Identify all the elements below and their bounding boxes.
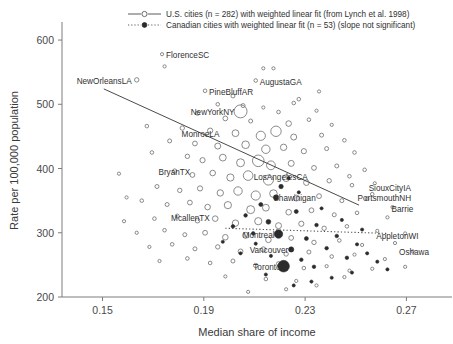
data-point <box>221 240 224 243</box>
data-point <box>215 143 221 149</box>
data-point <box>309 208 314 213</box>
data-point <box>291 134 297 140</box>
legend-label-canadian-cities: Canadian cities with weighted linear fit… <box>166 21 415 30</box>
x-tick-label-0.27: 0.27 <box>396 304 417 316</box>
data-point <box>170 243 174 247</box>
data-point <box>254 242 257 245</box>
data-point <box>307 250 311 254</box>
data-point <box>223 234 229 240</box>
data-point <box>297 191 300 194</box>
data-point <box>312 265 316 269</box>
data-point <box>145 124 149 128</box>
data-point <box>332 213 336 217</box>
data-point <box>262 204 269 211</box>
data-point <box>163 65 166 68</box>
data-point <box>262 145 270 153</box>
legend-item-us-cities[interactable]: U.S. cities (n = 282) with weighted line… <box>128 10 410 19</box>
y-tick-label-500: 500 <box>36 98 54 110</box>
y-tick-label-600: 600 <box>36 34 54 46</box>
x-tick-label-0.15: 0.15 <box>92 304 113 316</box>
data-point <box>256 131 265 140</box>
data-point <box>249 119 253 123</box>
data-point <box>266 219 271 224</box>
data-point <box>203 89 207 93</box>
data-point <box>153 217 157 221</box>
data-point <box>330 123 333 126</box>
data-point <box>197 186 202 191</box>
data-point <box>330 255 334 259</box>
point-label-augustaga: AugustaGA <box>260 78 302 87</box>
data-point <box>312 240 316 244</box>
data-point <box>310 280 313 283</box>
data-point <box>317 194 322 199</box>
data-point <box>277 110 281 114</box>
data-point <box>307 118 311 122</box>
data-point <box>224 275 227 278</box>
data-point <box>203 230 208 235</box>
data-point <box>343 275 346 278</box>
data-point <box>262 106 265 109</box>
y-axis-label: Rate per 100,000 population <box>8 91 20 230</box>
data-point <box>243 171 253 181</box>
data-point <box>244 214 248 218</box>
data-point <box>193 141 198 146</box>
legend-marker-open-circle <box>142 11 147 16</box>
data-point <box>279 184 283 188</box>
point-label-toronto: Toronto <box>253 263 281 272</box>
point-label-florencesc: FlorenceSC <box>166 51 209 60</box>
data-point <box>345 256 349 260</box>
data-point <box>239 252 242 255</box>
data-point <box>190 173 195 178</box>
data-point <box>312 165 317 170</box>
data-point <box>276 223 282 229</box>
data-point <box>224 202 231 209</box>
data-point <box>255 218 262 225</box>
data-point <box>125 196 128 199</box>
data-point <box>376 260 379 263</box>
data-point <box>200 158 205 163</box>
data-point <box>295 279 298 282</box>
fit-line-u-s-cities <box>104 89 359 205</box>
data-point <box>340 199 344 203</box>
x-axis-label: Median share of income <box>198 326 315 338</box>
point-label-mcallentx: McallenTX <box>171 214 210 223</box>
data-point <box>338 239 342 243</box>
data-point <box>350 183 354 187</box>
data-point <box>163 228 167 232</box>
point-label-monroela: MonroeLA <box>182 130 220 139</box>
data-point <box>216 102 220 106</box>
data-point <box>242 141 250 149</box>
data-point <box>345 225 349 229</box>
data-point <box>193 247 197 251</box>
point-label-appletonwi: AppletonWI <box>376 232 418 241</box>
data-point <box>300 258 304 262</box>
data-point <box>205 204 211 210</box>
point-label-barrie: Barrie <box>391 205 413 214</box>
data-point <box>317 90 320 93</box>
data-point <box>231 259 235 263</box>
data-point <box>286 121 292 127</box>
data-point <box>158 259 161 262</box>
data-point <box>254 79 258 83</box>
plot-canvas: 2003004005006000.150.190.230.27Median sh… <box>0 0 453 344</box>
data-point <box>259 203 263 207</box>
legend-item-canadian-cities[interactable]: Canadian cities with weighted linear fit… <box>128 21 415 30</box>
data-point <box>304 237 308 241</box>
point-label-oshawa: Oshawa <box>399 248 429 257</box>
data-point <box>217 190 223 196</box>
point-label-shawinigan: Shawinigan <box>273 194 316 203</box>
data-point <box>274 230 282 238</box>
x-tick-label-0.23: 0.23 <box>295 304 316 316</box>
data-point <box>340 218 343 221</box>
data-point <box>227 174 234 181</box>
data-point <box>301 149 306 154</box>
data-point <box>330 276 333 279</box>
data-point <box>363 168 367 172</box>
data-point <box>247 290 250 293</box>
data-point <box>355 243 358 246</box>
data-point <box>315 109 318 112</box>
data-point <box>186 257 190 261</box>
point-label-pinebluffar: PineBluffAR <box>209 88 253 97</box>
data-point <box>320 207 323 210</box>
data-point <box>315 284 318 287</box>
